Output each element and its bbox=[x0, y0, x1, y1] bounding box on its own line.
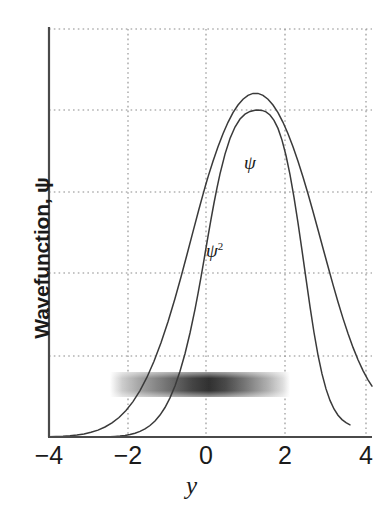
horizontal-gridlines bbox=[49, 29, 372, 356]
psi-squared-curve-label: ψ2 bbox=[206, 240, 223, 262]
wavefunction-chart-figure: Wavefunction, ψ y −4 −2 0 2 4 ψ ψ2 bbox=[0, 0, 383, 509]
psi-curve-label: ψ bbox=[244, 152, 256, 174]
x-tick-label-minus2: −2 bbox=[108, 441, 148, 470]
y-axis-label: Wavefunction, ψ bbox=[30, 68, 54, 448]
x-tick-label-plus2: 2 bbox=[265, 441, 305, 470]
plot-canvas bbox=[0, 0, 383, 509]
psi-squared-exponent: 2 bbox=[218, 240, 224, 252]
psi-squared-base: ψ bbox=[206, 240, 218, 261]
x-axis-label: y bbox=[0, 472, 383, 500]
x-tick-label-minus4: −4 bbox=[29, 441, 69, 470]
probability-density-band bbox=[110, 372, 290, 397]
x-tick-label-plus4: 4 bbox=[346, 441, 383, 470]
x-tick-label-zero: 0 bbox=[186, 441, 226, 470]
